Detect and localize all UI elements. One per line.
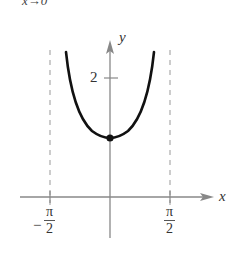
denominator: 2 [46,222,53,236]
numerator: π [166,205,173,219]
x-tick-label-neg-pi-over-2: π 2 [44,205,55,236]
denominator: 2 [166,222,173,236]
y-axis-label: y [119,30,126,45]
x-tick-label-pi-over-2: π 2 [164,205,175,236]
minus-sign: − [33,218,41,233]
x-axis-label: x [219,189,226,204]
minimum-point [106,134,113,141]
y-tick-label-2: 2 [90,70,98,85]
numerator: π [46,205,53,219]
